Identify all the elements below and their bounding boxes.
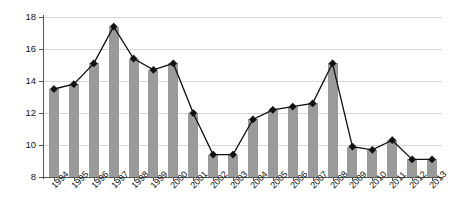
data-point-marker[interactable]: [289, 103, 296, 110]
chart-container: 81012141618 1994199519961997199819992000…: [0, 0, 456, 217]
y-tick-mark: [39, 49, 44, 50]
y-tick-mark: [39, 81, 44, 82]
data-point-marker[interactable]: [170, 60, 177, 67]
data-point-marker[interactable]: [269, 106, 276, 113]
y-tick-mark: [39, 145, 44, 146]
y-tick-mark: [39, 113, 44, 114]
data-point-marker[interactable]: [349, 143, 356, 150]
data-point-marker[interactable]: [110, 23, 117, 30]
data-point-marker[interactable]: [229, 151, 236, 158]
data-point-marker[interactable]: [309, 100, 316, 107]
y-tick-mark: [39, 177, 44, 178]
series-line: [54, 27, 432, 160]
data-point-marker[interactable]: [249, 116, 256, 123]
data-point-marker[interactable]: [150, 66, 157, 73]
data-point-marker[interactable]: [210, 151, 217, 158]
data-point-marker[interactable]: [190, 109, 197, 116]
data-point-marker[interactable]: [130, 55, 137, 62]
data-point-marker[interactable]: [329, 60, 336, 67]
data-point-marker[interactable]: [50, 85, 57, 92]
y-tick-mark: [39, 17, 44, 18]
data-point-marker[interactable]: [428, 156, 435, 163]
series-markers: [50, 23, 435, 163]
data-point-marker[interactable]: [369, 146, 376, 153]
